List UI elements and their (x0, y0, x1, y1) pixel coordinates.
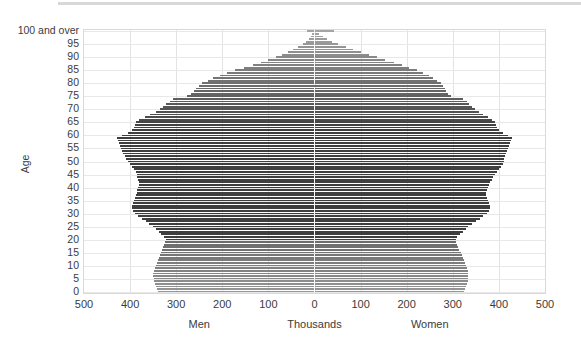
bar-men-age-49 (130, 163, 314, 165)
bar-men-age-92 (288, 51, 315, 53)
bar-women-age-24 (315, 228, 466, 230)
y-tick-label-40: 40 (67, 182, 79, 193)
bar-women-age-11 (315, 262, 465, 264)
bar-women-age-12 (315, 259, 464, 261)
bar-men-age-45 (137, 174, 315, 176)
bar-men-age-62 (132, 129, 315, 131)
bar-women-age-56 (315, 145, 510, 147)
bar-men-age-50 (128, 161, 314, 163)
bar-men-age-9 (155, 267, 315, 269)
bar-women-age-97 (315, 38, 328, 40)
bar-women-age-60 (315, 135, 509, 137)
bar-women-age-43 (315, 179, 492, 181)
bar-women-age-50 (315, 161, 504, 163)
bar-women-age-98 (315, 36, 323, 38)
bar-men-age-46 (136, 171, 315, 173)
bar-women-age-1 (315, 288, 465, 290)
bar-men-age-72 (166, 103, 314, 105)
bar-men-age-1 (157, 288, 315, 290)
bar-women-age-17 (315, 246, 459, 248)
bar-men-age-18 (164, 244, 314, 246)
bar-women-age-44 (315, 176, 494, 178)
bar-women-age-53 (315, 153, 507, 155)
bar-men-age-55 (121, 148, 315, 150)
bar-men-age-24 (156, 228, 315, 230)
y-tick-label-90: 90 (67, 51, 79, 62)
y-tick-label-80: 80 (67, 77, 79, 88)
bar-women-age-61 (315, 132, 503, 134)
bar-women-age-81 (315, 80, 438, 82)
bar-women-age-34 (315, 202, 489, 204)
bar-women-age-91 (315, 54, 369, 56)
women-axis-caption: Women (370, 318, 490, 330)
bar-women-age-69 (315, 111, 479, 113)
bar-women-age-74 (315, 98, 463, 100)
x-tick-label-10: 500 (515, 298, 575, 310)
bar-women-age-36 (315, 197, 487, 199)
bar-women-age-77 (315, 90, 447, 92)
bar-women-age-23 (315, 231, 463, 233)
bar-men-age-63 (134, 127, 315, 129)
bar-men-age-79 (199, 85, 314, 87)
bar-women-age-68 (315, 114, 484, 116)
y-axis-ticks: 0510152025303540455055606570758085909510… (0, 29, 79, 294)
bar-women-age-62 (315, 129, 499, 131)
bar-women-age-82 (315, 77, 434, 79)
bar-men-age-43 (138, 179, 314, 181)
y-tick-label-50: 50 (67, 156, 79, 167)
bar-women-age-15 (315, 252, 462, 254)
bar-men-age-94 (298, 46, 315, 48)
bar-women-age-28 (315, 218, 480, 220)
bar-men-age-44 (137, 176, 314, 178)
y-tick-label-5: 5 (73, 273, 79, 284)
y-tick-label-15: 15 (67, 247, 79, 258)
bar-women-age-0 (315, 291, 464, 293)
bar-women-age-88 (315, 62, 394, 64)
bar-men-age-15 (161, 252, 315, 254)
bar-women-age-9 (315, 267, 467, 269)
bar-men-age-40 (138, 187, 314, 189)
bar-women-age-13 (315, 257, 463, 259)
bar-men-age-48 (132, 166, 315, 168)
population-pyramid-chart: Age 051015202530354045505560657075808590… (0, 0, 581, 352)
bar-men-age-20 (166, 239, 314, 241)
bar-men-age-76 (191, 93, 315, 95)
bar-men-age-75 (187, 95, 314, 97)
bar-men-age-11 (157, 262, 315, 264)
x-axis-title: Thousands (255, 318, 375, 330)
bar-men-age-16 (162, 249, 314, 251)
bar-men-age-33 (132, 205, 315, 207)
y-tick-label-100-and-over: 100 and over (18, 25, 79, 36)
bar-women-age-90 (315, 56, 378, 58)
bar-women-age-51 (315, 158, 505, 160)
bar-men-age-42 (139, 181, 314, 183)
bar-men-age-66 (139, 119, 314, 121)
bar-women-age-3 (315, 283, 467, 285)
bar-women-age-20 (315, 239, 456, 241)
bar-men-age-64 (135, 124, 315, 126)
bar-men-age-87 (253, 64, 315, 66)
bar-men-age-52 (125, 155, 315, 157)
men-axis-caption: Men (139, 318, 259, 330)
bar-men-age-61 (128, 132, 314, 134)
bar-men-age-74 (173, 98, 314, 100)
bar-men-age-54 (122, 150, 315, 152)
bar-men-age-84 (227, 72, 315, 74)
bar-men-age-34 (133, 202, 315, 204)
bar-women-age-86 (315, 67, 410, 69)
bar-women-age-47 (315, 168, 499, 170)
bar-men-age-65 (136, 121, 315, 123)
bar-men-age-95 (303, 43, 315, 45)
bar-men-age-22 (161, 233, 314, 235)
bar-men-age-35 (134, 200, 315, 202)
bar-women-age-67 (315, 116, 488, 118)
bar-men-age-82 (213, 77, 314, 79)
bar-men-age-14 (160, 254, 315, 256)
bar-men-age-68 (150, 114, 314, 116)
bar-men-age-27 (146, 220, 315, 222)
bar-women-age-55 (315, 148, 509, 150)
bar-women-age-40 (315, 187, 488, 189)
y-tick-label-75: 75 (67, 90, 79, 101)
y-tick-label-25: 25 (67, 221, 79, 232)
bar-men-age-36 (135, 197, 315, 199)
